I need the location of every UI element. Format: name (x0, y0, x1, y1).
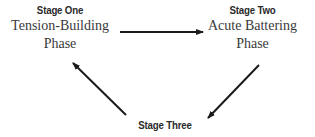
arrow-up-left-icon (73, 63, 126, 115)
arrow-down-left-icon (208, 65, 259, 118)
cycle-arrows (0, 0, 315, 137)
